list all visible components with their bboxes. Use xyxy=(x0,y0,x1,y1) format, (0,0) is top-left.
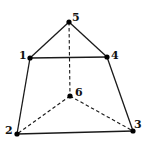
edge-6-3 xyxy=(70,96,133,131)
nodes-group xyxy=(14,19,135,136)
vertex-label-6: 6 xyxy=(75,87,83,98)
edge-5-1 xyxy=(30,22,69,58)
edge-2-3 xyxy=(17,131,133,134)
edge-6-2 xyxy=(17,96,70,134)
edge-5-4 xyxy=(69,22,107,57)
edge-1-2 xyxy=(17,58,30,134)
vertex-label-5: 5 xyxy=(72,12,80,23)
vertex-6 xyxy=(67,93,72,98)
vertex-label-3: 3 xyxy=(134,119,142,130)
vertex-label-2: 2 xyxy=(5,125,13,136)
vertex-2 xyxy=(14,131,19,136)
edges-group xyxy=(17,22,133,134)
edge-1-4 xyxy=(30,57,107,58)
edge-4-3 xyxy=(107,57,133,131)
vertex-label-4: 4 xyxy=(111,50,119,61)
vertex-5 xyxy=(66,19,71,24)
vertex-4 xyxy=(104,54,109,59)
vertex-label-1: 1 xyxy=(19,50,27,61)
edge-5-6 xyxy=(69,22,70,96)
vertex-1 xyxy=(27,55,32,60)
